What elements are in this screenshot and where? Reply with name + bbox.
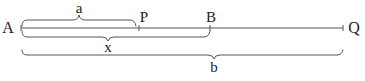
brace-label-b: b — [210, 59, 218, 75]
segment-diagram: A P B Q a x b — [0, 0, 365, 81]
point-label-b: B — [206, 9, 216, 25]
brace-label-a: a — [76, 0, 83, 16]
point-label-p: P — [140, 9, 148, 25]
point-label-q: Q — [348, 19, 360, 36]
brace-label-x: x — [104, 39, 112, 55]
brace-b — [22, 50, 343, 59]
point-label-a: A — [2, 19, 14, 36]
brace-x — [22, 31, 210, 41]
brace-a — [22, 15, 136, 26]
